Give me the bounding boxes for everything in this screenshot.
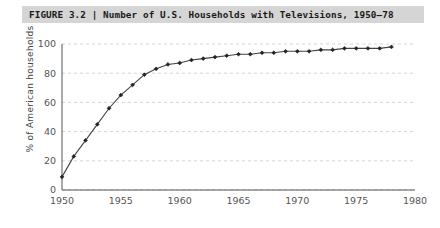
y-tick-label-0: 0 xyxy=(50,184,56,195)
data-point-1974 xyxy=(343,46,347,50)
data-point-1959 xyxy=(166,63,170,67)
line-chart-svg: 020406080100 195019551960196519701975198… xyxy=(0,24,440,228)
data-point-1968 xyxy=(272,51,276,55)
data-point-1958 xyxy=(154,67,158,71)
data-point-1969 xyxy=(284,49,288,53)
data-point-markers-group xyxy=(60,45,393,179)
data-point-1967 xyxy=(260,51,264,55)
y-tick-label-60: 60 xyxy=(44,97,56,108)
data-series-line xyxy=(62,47,391,177)
data-point-1977 xyxy=(378,46,382,50)
x-tick-label-1960: 1960 xyxy=(168,195,192,206)
y-tick-labels-group: 020406080100 xyxy=(38,38,56,195)
data-point-1960 xyxy=(178,61,182,65)
figure-title-bar: FIGURE 3.2 | Number of U.S. Households w… xyxy=(22,6,424,23)
y-tick-label-20: 20 xyxy=(44,155,56,166)
chart-plot-area: % of American households 020406080100 19… xyxy=(0,24,440,228)
data-point-1972 xyxy=(319,48,323,52)
data-point-1965 xyxy=(237,52,241,56)
gridlines-group xyxy=(62,44,415,190)
x-tick-label-1970: 1970 xyxy=(285,195,309,206)
figure-container: FIGURE 3.2 | Number of U.S. Households w… xyxy=(0,0,440,228)
x-tick-label-1950: 1950 xyxy=(50,195,74,206)
y-tick-label-40: 40 xyxy=(44,126,56,137)
x-tick-labels-group: 1950195519601965197019751980 xyxy=(50,195,427,206)
data-point-1963 xyxy=(213,55,217,59)
figure-title-text: FIGURE 3.2 | Number of U.S. Households w… xyxy=(29,9,394,20)
x-tick-label-1975: 1975 xyxy=(344,195,368,206)
data-point-1966 xyxy=(248,52,252,56)
data-point-1976 xyxy=(366,46,370,50)
data-point-1970 xyxy=(295,49,299,53)
x-tick-label-1965: 1965 xyxy=(226,195,250,206)
data-point-1961 xyxy=(190,58,194,62)
data-point-1975 xyxy=(354,46,358,50)
x-tick-label-1955: 1955 xyxy=(109,195,133,206)
data-point-1971 xyxy=(307,49,311,53)
data-point-1964 xyxy=(225,54,229,58)
data-point-1973 xyxy=(331,48,335,52)
data-point-1978 xyxy=(390,45,394,49)
x-tick-label-1980: 1980 xyxy=(403,195,427,206)
y-tick-label-80: 80 xyxy=(44,68,56,79)
data-point-1962 xyxy=(201,57,205,61)
y-tick-label-100: 100 xyxy=(38,38,56,49)
